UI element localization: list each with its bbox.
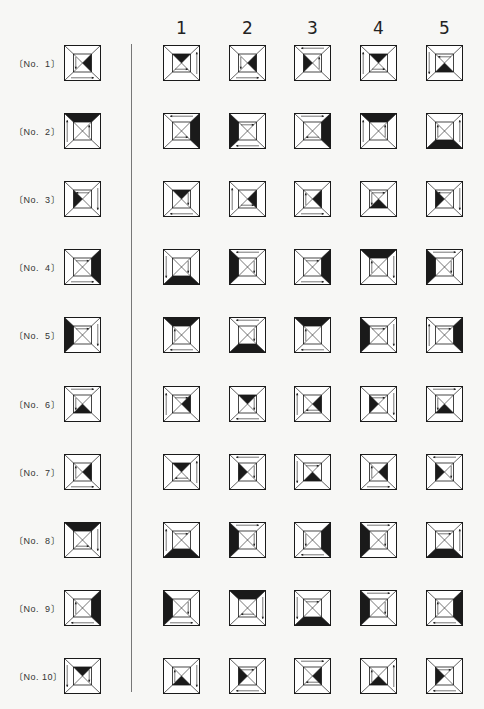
row-label: 〔No. 10〕 bbox=[14, 670, 58, 683]
answer-option-3[interactable] bbox=[294, 386, 331, 422]
answer-option-1[interactable] bbox=[163, 522, 200, 558]
answer-option-4[interactable] bbox=[360, 454, 397, 490]
question-figure bbox=[64, 45, 101, 81]
answer-option-5[interactable] bbox=[426, 317, 463, 353]
answer-option-2[interactable] bbox=[229, 45, 266, 81]
answer-option-3[interactable] bbox=[294, 113, 331, 149]
answer-option-1[interactable] bbox=[163, 317, 200, 353]
row-label: 〔No. 9〕 bbox=[14, 602, 58, 615]
answer-option-3[interactable] bbox=[294, 249, 331, 285]
answer-option-4[interactable] bbox=[360, 249, 397, 285]
column-number-3: 3 bbox=[294, 18, 331, 38]
answer-option-4[interactable] bbox=[360, 590, 397, 626]
question-figure bbox=[64, 658, 101, 694]
answer-option-1[interactable] bbox=[163, 590, 200, 626]
answer-option-5[interactable] bbox=[426, 522, 463, 558]
answer-option-3[interactable] bbox=[294, 454, 331, 490]
answer-option-3[interactable] bbox=[294, 45, 331, 81]
question-figure bbox=[64, 181, 101, 217]
answer-option-2[interactable] bbox=[229, 454, 266, 490]
answer-option-5[interactable] bbox=[426, 113, 463, 149]
answer-option-1[interactable] bbox=[163, 249, 200, 285]
question-figure bbox=[64, 454, 101, 490]
column-number-4: 4 bbox=[360, 18, 397, 38]
question-figure bbox=[64, 113, 101, 149]
separator-line bbox=[131, 44, 132, 692]
answer-option-1[interactable] bbox=[163, 113, 200, 149]
answer-option-2[interactable] bbox=[229, 317, 266, 353]
row-label: 〔No. 3〕 bbox=[14, 193, 58, 206]
column-number-5: 5 bbox=[426, 18, 463, 38]
answer-option-4[interactable] bbox=[360, 45, 397, 81]
answer-option-3[interactable] bbox=[294, 590, 331, 626]
answer-option-5[interactable] bbox=[426, 249, 463, 285]
answer-option-4[interactable] bbox=[360, 386, 397, 422]
answer-option-5[interactable] bbox=[426, 181, 463, 217]
row-label: 〔No. 5〕 bbox=[14, 329, 58, 342]
question-figure bbox=[64, 249, 101, 285]
answer-option-5[interactable] bbox=[426, 45, 463, 81]
row-label: 〔No. 7〕 bbox=[14, 466, 58, 479]
answer-option-4[interactable] bbox=[360, 113, 397, 149]
answer-option-4[interactable] bbox=[360, 658, 397, 694]
answer-option-4[interactable] bbox=[360, 522, 397, 558]
question-figure bbox=[64, 522, 101, 558]
question-figure bbox=[64, 590, 101, 626]
answer-option-3[interactable] bbox=[294, 317, 331, 353]
answer-option-2[interactable] bbox=[229, 590, 266, 626]
answer-option-2[interactable] bbox=[229, 181, 266, 217]
answer-option-2[interactable] bbox=[229, 113, 266, 149]
answer-option-5[interactable] bbox=[426, 454, 463, 490]
column-number-2: 2 bbox=[229, 18, 266, 38]
answer-option-2[interactable] bbox=[229, 386, 266, 422]
answer-option-1[interactable] bbox=[163, 181, 200, 217]
question-figure bbox=[64, 386, 101, 422]
answer-option-1[interactable] bbox=[163, 658, 200, 694]
answer-option-5[interactable] bbox=[426, 590, 463, 626]
row-label: 〔No. 8〕 bbox=[14, 534, 58, 547]
answer-option-1[interactable] bbox=[163, 454, 200, 490]
row-label: 〔No. 6〕 bbox=[14, 398, 58, 411]
answer-option-2[interactable] bbox=[229, 522, 266, 558]
row-label: 〔No. 1〕 bbox=[14, 57, 58, 70]
answer-option-2[interactable] bbox=[229, 249, 266, 285]
row-label: 〔No. 2〕 bbox=[14, 125, 58, 138]
answer-option-3[interactable] bbox=[294, 522, 331, 558]
column-number-1: 1 bbox=[163, 18, 200, 38]
answer-option-4[interactable] bbox=[360, 181, 397, 217]
row-label: 〔No. 4〕 bbox=[14, 261, 58, 274]
answer-option-4[interactable] bbox=[360, 317, 397, 353]
answer-option-5[interactable] bbox=[426, 658, 463, 694]
answer-option-1[interactable] bbox=[163, 386, 200, 422]
answer-option-5[interactable] bbox=[426, 386, 463, 422]
question-figure bbox=[64, 317, 101, 353]
answer-option-3[interactable] bbox=[294, 181, 331, 217]
answer-option-2[interactable] bbox=[229, 658, 266, 694]
answer-option-3[interactable] bbox=[294, 658, 331, 694]
answer-option-1[interactable] bbox=[163, 45, 200, 81]
